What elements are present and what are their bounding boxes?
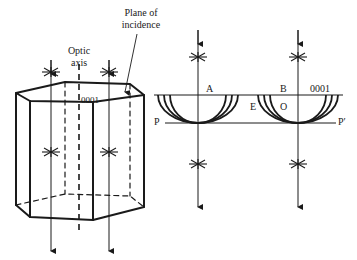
plane-of-incidence-line2: incidence	[118, 20, 164, 30]
crystal-face-label: 0001	[81, 96, 99, 105]
plane-of-incidence-line1: Plane of	[118, 8, 164, 18]
plane-p-prime-label: P′	[338, 117, 346, 127]
point-o-label: O	[280, 102, 287, 112]
point-e-label: E	[250, 102, 256, 112]
plane-of-incidence-pointer	[125, 34, 137, 92]
optic-axis-line1: Optic	[63, 46, 95, 56]
optic-axis-label: Optic axis	[63, 46, 95, 68]
crystal-rays	[51, 60, 109, 251]
point-a-label: A	[206, 84, 213, 94]
plane-of-incidence-label: Plane of incidence	[118, 8, 164, 30]
right-face-label: 0001	[310, 84, 330, 94]
polarization-star-icons-right	[189, 52, 307, 169]
optic-axis-line2: axis	[63, 58, 95, 68]
birefringence-diagram: Plane of incidence Optic axis 0001 A B 0…	[0, 0, 357, 260]
plane-p-label: P	[154, 117, 160, 127]
diagram-canvas	[0, 0, 357, 260]
polarization-star-icons-left	[42, 67, 118, 157]
hexagonal-crystal	[16, 82, 144, 220]
point-b-label: B	[280, 84, 287, 94]
